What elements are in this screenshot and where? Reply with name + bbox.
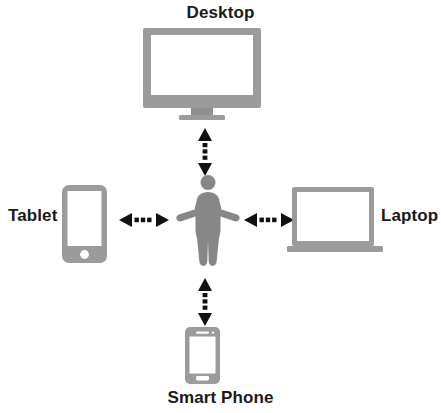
arrowhead-right-icon — [156, 213, 169, 227]
connector-tablet — [119, 211, 169, 229]
connector-desktop — [196, 128, 214, 176]
arrowhead-left-icon — [244, 213, 257, 227]
laptop-label: Laptop — [381, 206, 438, 226]
connector-smartphone — [196, 278, 214, 326]
diagram-canvas: Desktop Tablet — [0, 0, 441, 413]
arrowhead-up-icon — [198, 128, 212, 141]
person-icon — [176, 175, 240, 270]
smartphone-icon — [185, 327, 221, 385]
arrowhead-down-icon — [198, 313, 212, 326]
tablet-label: Tablet — [8, 206, 57, 226]
desktop-label: Desktop — [0, 3, 441, 23]
desktop-monitor-icon — [143, 28, 263, 120]
laptop-icon — [287, 187, 383, 255]
tablet-icon — [62, 185, 108, 264]
arrowhead-up-icon — [198, 278, 212, 291]
smartphone-label: Smart Phone — [0, 388, 441, 408]
arrowhead-left-icon — [119, 213, 132, 227]
